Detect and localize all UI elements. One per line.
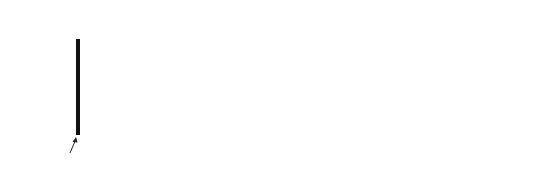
nut-bar (76, 39, 80, 135)
nut-arrow-icon (70, 137, 78, 153)
fretboard-diagram (0, 0, 553, 175)
